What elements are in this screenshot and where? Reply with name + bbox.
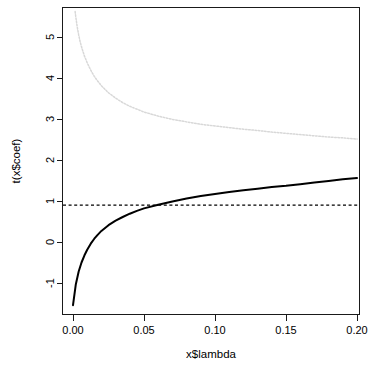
y-tick-label--1: -1 <box>44 278 56 288</box>
coefficient-path-chart: 0.000.050.100.150.20 -1012345 x$lambda t… <box>0 0 372 374</box>
x-tick-label-0.10: 0.10 <box>204 324 225 336</box>
y-axis-title: t(x$coef) <box>10 138 22 183</box>
y-tick-label-2: 2 <box>44 157 56 163</box>
y-tick-label-4: 4 <box>44 75 56 81</box>
x-tick-label-0.00: 0.00 <box>62 324 83 336</box>
y-tick-label-1: 1 <box>44 198 56 204</box>
x-tick-label-0.05: 0.05 <box>133 324 154 336</box>
y-tick-label-5: 5 <box>44 34 56 40</box>
r-plot-device: 0.000.050.100.150.20 -1012345 x$lambda t… <box>0 0 372 374</box>
x-tick-label-0.20: 0.20 <box>346 324 367 336</box>
y-tick-label-0: 0 <box>44 239 56 245</box>
y-tick-label-3: 3 <box>44 116 56 122</box>
plot-background <box>0 0 372 374</box>
x-axis-title: x$lambda <box>186 348 236 360</box>
x-tick-label-0.15: 0.15 <box>275 324 296 336</box>
